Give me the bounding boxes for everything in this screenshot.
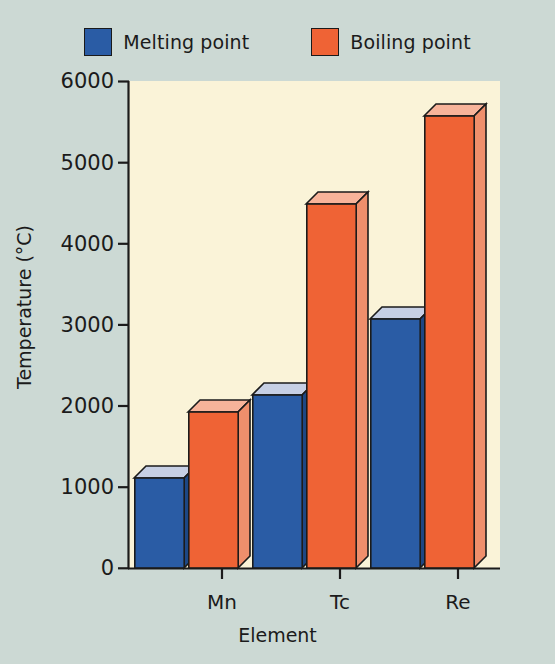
legend-label-melting-point: Melting point (123, 31, 249, 53)
bar-re-melting-point (370, 301, 432, 570)
x-tick-label-re: Re (398, 590, 518, 614)
bar-tc-boiling-point (306, 186, 368, 570)
bar-mn-melting-point (134, 460, 196, 570)
y-tick-label: 6000 (4, 69, 114, 93)
bar-mn-boiling-point (188, 394, 250, 570)
bar-tc-melting-point (252, 377, 314, 570)
y-tick-label: 1000 (4, 475, 114, 499)
y-tick-label: 0 (4, 556, 114, 580)
x-axis-title: Element (0, 624, 555, 646)
legend-entry-boiling-point: Boiling point (311, 28, 470, 56)
y-axis-title: Temperature (°C) (13, 187, 35, 427)
orange-square-swatch-icon (311, 28, 339, 56)
x-tick-label-mn: Mn (162, 590, 282, 614)
legend-label-boiling-point: Boiling point (350, 31, 470, 53)
bar-re-boiling-point (424, 98, 486, 570)
chart-figure: Melting point Boiling point (0, 0, 555, 664)
x-tick-label-tc: Tc (280, 590, 400, 614)
y-tick-label: 5000 (4, 151, 114, 175)
